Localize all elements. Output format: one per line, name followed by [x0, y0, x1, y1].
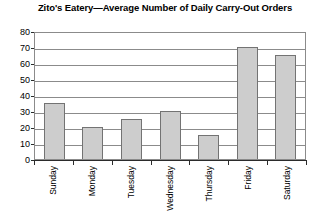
bar-slot [35, 33, 74, 159]
x-axis-tick [34, 160, 35, 165]
x-axis-tick-label: Wednesday [166, 166, 175, 211]
x-axis-tick [189, 160, 190, 165]
bar [82, 127, 103, 159]
bar [160, 111, 181, 159]
bar-chart: Zito's Eatery—Average Number of Daily Ca… [0, 0, 320, 218]
y-axis-tick-label: 10 [0, 140, 30, 149]
x-axis-tick-label: Friday [243, 166, 252, 190]
y-axis-tick-labels: 80706050403020100 [0, 32, 30, 160]
x-axis-tick [73, 160, 74, 165]
bar-slot [266, 33, 305, 159]
x-axis-ticks [34, 160, 306, 165]
y-axis-tick-label: 60 [0, 60, 30, 69]
bar [121, 119, 142, 159]
x-axis-label-slot: Saturday [267, 166, 306, 218]
x-axis-tick-label: Saturday [282, 166, 291, 200]
x-axis-tick [228, 160, 229, 165]
bar-slot [74, 33, 113, 159]
bar-series [35, 33, 305, 159]
bar-slot [189, 33, 228, 159]
x-axis-tick-label: Sunday [49, 166, 58, 195]
y-axis-tick-label: 30 [0, 108, 30, 117]
y-axis-tick-label: 80 [0, 28, 30, 37]
x-axis-tick [267, 160, 268, 165]
x-axis-tick [306, 160, 307, 165]
x-axis-tick-label: Tuesday [127, 166, 136, 198]
y-axis-tick-label: 50 [0, 76, 30, 85]
bar [275, 55, 296, 159]
plot-area [34, 32, 306, 160]
y-axis-tick-label: 0 [0, 156, 30, 165]
bar-slot [151, 33, 190, 159]
y-axis-tick-label: 20 [0, 124, 30, 133]
x-axis-label-slot: Tuesday [112, 166, 151, 218]
bar-slot [228, 33, 267, 159]
x-axis-label-slot: Thursday [189, 166, 228, 218]
x-axis-label-slot: Sunday [34, 166, 73, 218]
y-axis-tick-label: 70 [0, 44, 30, 53]
x-axis-label-slot: Monday [73, 166, 112, 218]
chart-title: Zito's Eatery—Average Number of Daily Ca… [22, 2, 308, 14]
x-axis-label-slot: Wednesday [151, 166, 190, 218]
bar [237, 47, 258, 159]
x-axis-tick-label: Thursday [204, 166, 213, 201]
bar [198, 135, 219, 159]
y-axis-tick-label: 40 [0, 92, 30, 101]
x-axis-tick [112, 160, 113, 165]
x-axis-tick-labels: SundayMondayTuesdayWednesdayThursdayFrid… [34, 166, 306, 218]
x-axis-tick-label: Monday [88, 166, 97, 196]
x-axis-label-slot: Friday [228, 166, 267, 218]
x-axis-tick [151, 160, 152, 165]
bar-slot [112, 33, 151, 159]
bar [44, 103, 65, 159]
